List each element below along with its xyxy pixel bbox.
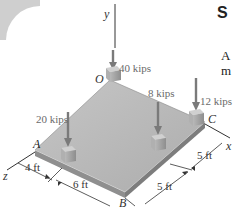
body-text-line-1: A: [221, 49, 230, 62]
point-a-label: A: [33, 138, 40, 150]
dim-5ft-a-label: 5 ft: [157, 181, 172, 192]
load-8-label: 8 kips: [148, 88, 175, 99]
dim-5ft-b-label: 5 ft: [197, 150, 212, 161]
load-20-label: 20 kips: [36, 114, 68, 125]
point-o-label: O: [95, 73, 104, 85]
y-axis-label: y: [104, 8, 109, 20]
x-axis-line: [205, 124, 230, 138]
point-c-label: C: [208, 113, 216, 125]
load-40-label: 40 kips: [119, 63, 151, 74]
dim-4ft-label: 4 ft: [25, 162, 40, 173]
point-b-label: B: [119, 197, 126, 208]
load-12-label: 12 kips: [200, 96, 232, 107]
body-text-line-2: m: [221, 64, 231, 77]
section-title-fragment: S: [217, 4, 228, 22]
z-axis-label: z: [3, 170, 8, 182]
x-axis-label: x: [226, 140, 231, 152]
dim-6ft-label: 6 ft: [73, 179, 88, 190]
plate-top: [35, 80, 205, 192]
